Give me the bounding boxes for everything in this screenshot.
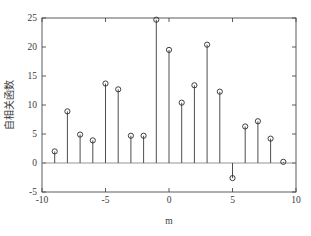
x-tick-label: -5 [102,195,110,205]
y-tick-label: 20 [28,42,38,52]
y-tick-label: 10 [28,100,38,110]
x-tick-label: 0 [167,195,172,205]
y-tick-label: 0 [32,158,37,168]
x-tick-label: 10 [291,195,301,205]
y-tick-label: -5 [29,187,37,197]
y-tick-label: 25 [28,13,38,23]
stem-plot: -10-50510 -50510152025 m 自相关函数 [0,0,311,236]
stem-lines [55,20,284,178]
x-axis-label: m [165,216,173,226]
x-axis-tick-labels: -10-50510 [36,195,301,205]
y-axis-tick-labels: -50510152025 [28,13,38,197]
x-tick-label: 5 [230,195,235,205]
y-axis-label: 自相关函数 [3,80,15,130]
x-tick-label: -10 [36,195,49,205]
y-tick-label: 15 [28,71,38,81]
figure-container: -10-50510 -50510152025 m 自相关函数 [0,0,311,236]
y-tick-label: 5 [32,129,37,139]
